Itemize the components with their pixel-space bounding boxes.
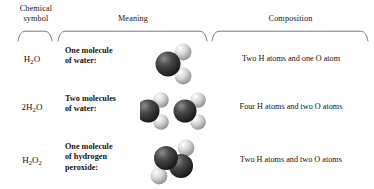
cell-molecular-model <box>140 139 212 187</box>
cell-composition: Two H atoms and two O atoms <box>213 155 369 165</box>
cell-molecular-model <box>140 42 212 87</box>
subscript: 2 <box>39 159 42 166</box>
brace-chemical-symbol <box>18 31 52 41</box>
meaning-line: One molecule <box>65 46 145 56</box>
subscript: 2 <box>29 159 32 166</box>
subscript: 2 <box>33 106 36 113</box>
cell-chemical-symbol: H2O2 <box>0 155 64 166</box>
water-molecule-icon <box>140 92 169 130</box>
cell-chemical-symbol: H2O <box>0 54 64 65</box>
table-row: H2O One molecule of water: <box>0 42 374 89</box>
meaning-line: peroxide: <box>65 163 145 173</box>
cell-composition: Two H atoms and one O atom <box>213 54 369 64</box>
cell-meaning: One molecule of hydrogen peroxide: <box>65 142 145 173</box>
cell-chemical-symbol: 2H2O <box>0 102 64 113</box>
meaning-line: of hydrogen <box>65 152 145 162</box>
hydrogen-atom <box>178 140 195 157</box>
cell-molecular-model <box>140 90 212 136</box>
hydrogen-peroxide-molecule-icon <box>148 139 204 187</box>
brace-meaning <box>58 31 207 41</box>
subscript: 2 <box>30 58 33 65</box>
table-row: 2H2O Two molecules of water: <box>0 89 374 137</box>
meaning-line: of water: <box>65 104 145 114</box>
hydrogen-atom <box>151 168 168 185</box>
water-molecule-icon <box>174 92 206 130</box>
oxygen-atom <box>174 100 197 123</box>
cell-meaning: Two molecules of water: <box>65 94 145 115</box>
table-body: H2O One molecule of water: <box>0 42 374 189</box>
meaning-line: Two molecules <box>65 94 145 104</box>
column-header-meaning: Meaning <box>58 14 208 24</box>
table-row: H2O2 One molecule of hydrogen peroxide: <box>0 137 374 189</box>
column-header-chemical-symbol-line2: symbol <box>6 14 66 24</box>
table-header: Chemical symbol Meaning Composition <box>0 0 374 30</box>
meaning-line: One molecule <box>65 142 145 152</box>
column-header-composition: Composition <box>212 14 369 24</box>
oxygen-atom <box>154 146 178 170</box>
meaning-line: of water: <box>65 56 145 66</box>
cell-composition: Four H atoms and two O atoms <box>213 102 369 112</box>
brace-composition <box>212 31 368 41</box>
column-header-chemical-symbol-line1: Chemical <box>6 4 66 14</box>
water-molecule-icon <box>150 42 202 87</box>
cell-meaning: One molecule of water: <box>65 46 145 67</box>
oxygen-atom <box>156 52 181 77</box>
column-header-chemical-symbol: Chemical symbol <box>6 4 66 23</box>
column-brace-group <box>0 28 374 42</box>
water-molecule-pair-icon <box>140 90 212 136</box>
